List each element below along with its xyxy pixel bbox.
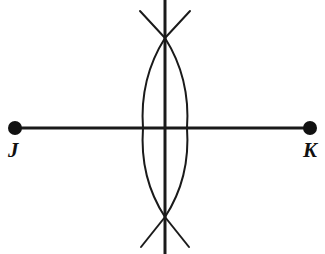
geometry-construction-diagram: J K bbox=[0, 0, 325, 254]
point-label-j: J bbox=[8, 140, 19, 161]
arc-tail-top-right bbox=[165, 11, 190, 38]
point-label-k: K bbox=[303, 140, 317, 161]
arc-tail-top-left bbox=[140, 11, 165, 38]
construction-canvas bbox=[0, 0, 325, 254]
arc-tail-bottom-right bbox=[165, 217, 189, 247]
arc-tail-bottom-left bbox=[141, 217, 165, 247]
point-j-dot bbox=[8, 121, 22, 135]
point-k-dot bbox=[303, 121, 317, 135]
